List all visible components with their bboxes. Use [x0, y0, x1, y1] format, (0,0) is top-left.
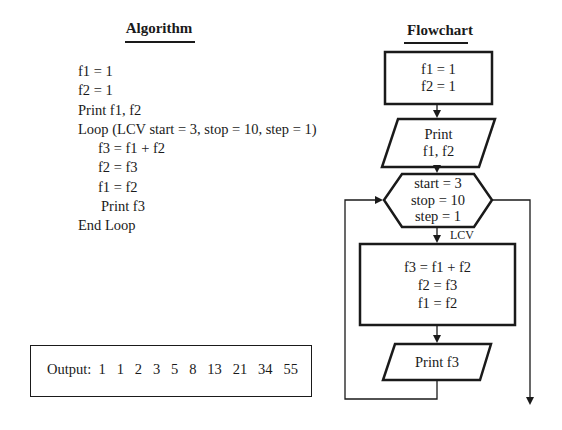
print-io-text: Print f1, f2: [390, 126, 487, 160]
loop-body-text: f3 = f1 + f2 f2 = f3 f1 = f2: [360, 258, 515, 312]
init-box-text: f1 = 1 f2 = 1: [385, 61, 492, 95]
loop-hex-text: start = 3 stop = 10 step = 1: [390, 175, 486, 225]
print-f3-text: Print f3: [386, 354, 488, 371]
lcv-label: LCV: [450, 228, 474, 243]
